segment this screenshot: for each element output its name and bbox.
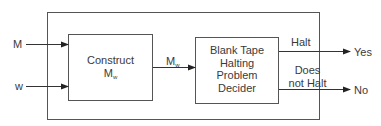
decider-line-2: Halting [195, 57, 279, 70]
diagram-canvas [0, 0, 381, 126]
edge-label-Mw: Mw [166, 55, 180, 71]
output-label-yes: Yes [354, 46, 372, 58]
output-label-no: No [354, 84, 368, 96]
construct-label-sym: M [104, 67, 113, 79]
edge-label-does: Does [280, 64, 335, 77]
edge-label-Mw-sub: w [175, 62, 179, 68]
construct-label-main: Construct [68, 54, 153, 67]
input-label-M: M [13, 38, 22, 50]
decider-line-4: Decider [195, 82, 279, 95]
decider-box-label: Blank Tape Halting Problem Decider [195, 44, 279, 94]
edge-label-does-not-halt: Does not Halt [280, 64, 335, 89]
decider-line-3: Problem [195, 69, 279, 82]
construct-label-sub: w [113, 74, 117, 80]
edge-label-Mw-sym: M [166, 55, 175, 67]
decider-line-1: Blank Tape [195, 44, 279, 57]
edge-label-not-halt: not Halt [280, 77, 335, 90]
construct-box-label: Construct Mw [68, 54, 153, 83]
construct-label-Mw: Mw [68, 67, 153, 84]
input-label-w: w [15, 80, 23, 92]
edge-label-halt: Halt [291, 36, 311, 48]
